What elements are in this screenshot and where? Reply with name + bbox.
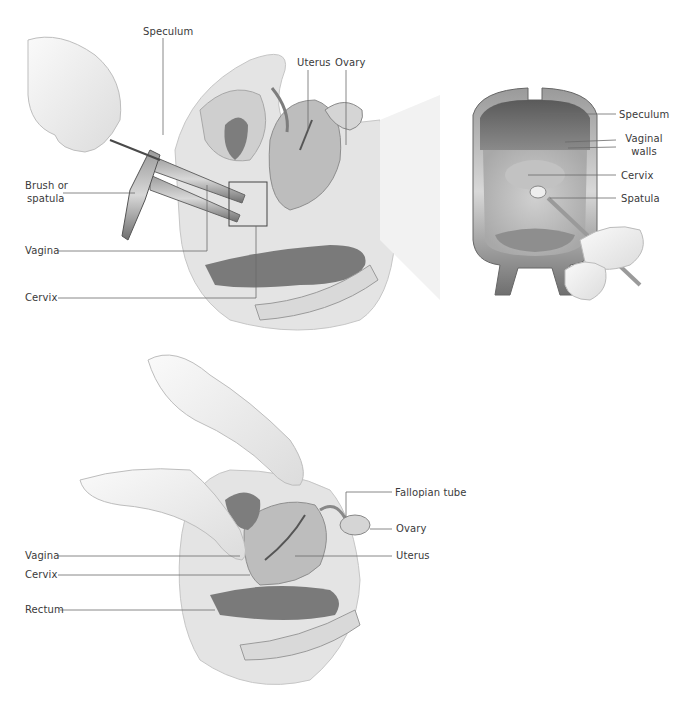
label-cervix: Cervix xyxy=(25,292,57,304)
panel-bimanual-sagittal xyxy=(80,355,370,685)
label-spatula: Spatula xyxy=(621,193,660,205)
label-vaginal-walls-line2: walls xyxy=(624,146,664,158)
label-uterus: Uterus xyxy=(297,57,331,69)
label-rectum: Rectum xyxy=(25,604,64,616)
label-brush-or-spatula-line2: spatula xyxy=(27,193,65,205)
label-ovary-bimanual: Ovary xyxy=(396,523,426,535)
label-cervix-view: Cervix xyxy=(621,170,653,182)
label-uterus-bimanual: Uterus xyxy=(396,550,430,562)
label-speculum: Speculum xyxy=(143,26,193,38)
label-speculum-view: Speculum xyxy=(619,109,669,121)
label-vagina: Vagina xyxy=(25,245,59,257)
label-cervix-bimanual: Cervix xyxy=(25,569,57,581)
label-vagina-bimanual: Vagina xyxy=(25,550,59,562)
label-brush-or-spatula-line1: Brush or xyxy=(25,180,68,192)
label-vaginal-walls-line1: Vaginal xyxy=(624,133,664,145)
anatomy-illustration xyxy=(0,0,692,716)
label-fallopian-tube: Fallopian tube xyxy=(395,487,467,499)
panel-speculum-sagittal xyxy=(28,37,440,330)
panel-speculum-view xyxy=(473,88,643,300)
label-ovary: Ovary xyxy=(335,57,365,69)
